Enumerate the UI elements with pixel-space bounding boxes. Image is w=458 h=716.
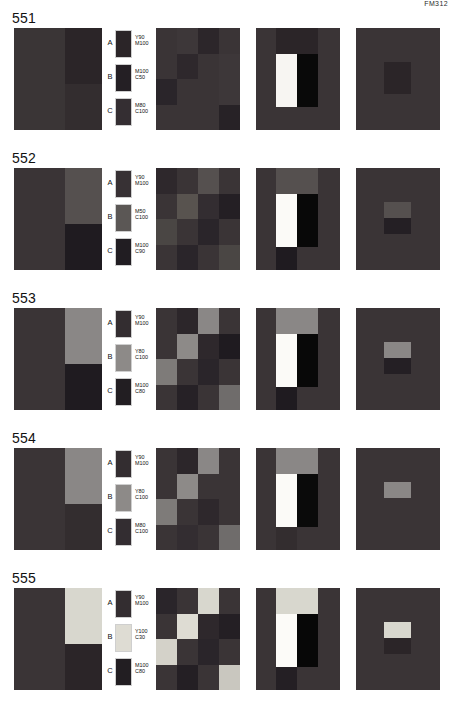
legend-row-letter: A	[106, 458, 114, 467]
legend-row: AY90M100	[106, 30, 152, 58]
mosaic-tile-10	[198, 79, 219, 105]
quadrant-cell-bottom-left	[14, 504, 65, 550]
mosaic-tile-10	[198, 219, 219, 245]
figure-group: 555AY90M100BY100C30CM100C80	[0, 570, 458, 710]
mosaic-tile-9	[177, 219, 198, 245]
bars-black-block	[297, 334, 318, 387]
quadrant-cell-bottom-right	[65, 224, 102, 270]
mosaic-tile-1	[177, 168, 198, 194]
legend-row: BY80C100	[106, 484, 152, 512]
legend-color-swatch	[115, 484, 132, 512]
quadrant-cell-bottom-left	[14, 84, 65, 130]
bars-black-block	[297, 54, 318, 107]
panel-mosaic-image	[156, 168, 240, 270]
mosaic-tile-2	[198, 588, 219, 614]
legend-color-swatch	[115, 98, 132, 126]
panel-bars-image	[256, 448, 340, 550]
quadrant-cell-bottom-right	[65, 364, 102, 410]
legend-row-letter: C	[106, 106, 114, 115]
legend-row: BM50C100	[106, 204, 152, 232]
spot-lower-block	[384, 638, 411, 654]
mosaic-tile-6	[198, 194, 219, 220]
color-legend: AY90M100BY80C100CM80C100	[106, 448, 152, 550]
mosaic-tile-7	[219, 334, 240, 360]
figure-group: 551AY90M100BM100C50CM80C100	[0, 10, 458, 150]
mosaic-tile-9	[177, 499, 198, 525]
mosaic-tile-1	[177, 308, 198, 334]
legend-color-swatch	[115, 204, 132, 232]
legend-row: BY80C100	[106, 344, 152, 372]
mosaic-tile-15	[219, 245, 240, 271]
legend-row: AY90M100	[106, 450, 152, 478]
quadrant-cell-top-left	[14, 168, 65, 224]
legend-ink-line-2: C100	[135, 494, 148, 500]
mosaic-tile-14	[198, 525, 219, 551]
mosaic-tile-3	[219, 588, 240, 614]
quadrant-cell-bottom-right	[65, 504, 102, 550]
panel-bars-image	[256, 588, 340, 690]
quadrant-cell-top-right	[65, 28, 102, 84]
legend-ink-values: M100C80	[135, 382, 149, 395]
spot-lower-block	[384, 358, 411, 374]
group-number-label: 554	[12, 430, 36, 446]
page-header-text: FM312	[424, 0, 448, 8]
mosaic-tile-11	[219, 79, 240, 105]
legend-ink-line-2: C80	[135, 668, 149, 674]
spot-upper-block	[384, 622, 411, 638]
legend-ink-line-2: C100	[135, 354, 148, 360]
quadrant-cell-top-right	[65, 308, 102, 364]
legend-ink-values: Y90M100	[135, 594, 149, 607]
mosaic-tile-14	[198, 385, 219, 411]
legend-ink-line-2: M100	[135, 460, 149, 466]
legend-ink-values: M80C100	[135, 102, 148, 115]
legend-row-letter: C	[106, 386, 114, 395]
spot-lower-block	[384, 218, 411, 234]
spot-upper-block	[384, 482, 411, 498]
bars-black-block	[297, 194, 318, 247]
legend-row-letter: A	[106, 178, 114, 187]
mosaic-tile-4	[156, 614, 177, 640]
legend-row-letter: B	[106, 632, 114, 641]
mosaic-tile-13	[177, 385, 198, 411]
legend-color-swatch	[115, 590, 132, 618]
legend-ink-line-2: M100	[135, 180, 149, 186]
legend-row-letter: C	[106, 666, 114, 675]
mosaic-tile-3	[219, 448, 240, 474]
legend-row-letter: B	[106, 212, 114, 221]
panel-spot-image	[356, 28, 440, 130]
legend-ink-line-2: C90	[135, 248, 149, 254]
mosaic-tile-6	[198, 54, 219, 80]
legend-color-swatch	[115, 658, 132, 686]
mosaic-tile-0	[156, 448, 177, 474]
bars-black-block	[297, 474, 318, 527]
mosaic-tile-4	[156, 474, 177, 500]
legend-color-swatch	[115, 450, 132, 478]
mosaic-tile-7	[219, 614, 240, 640]
panel-spot-image	[356, 308, 440, 410]
color-legend: AY90M100BY100C30CM100C80	[106, 588, 152, 690]
quadrant-cell-top-left	[14, 308, 65, 364]
legend-ink-values: Y80C100	[135, 348, 148, 361]
legend-color-swatch	[115, 518, 132, 546]
mosaic-tile-1	[177, 448, 198, 474]
legend-row-letter: A	[106, 318, 114, 327]
mosaic-tile-14	[198, 105, 219, 131]
legend-color-swatch	[115, 378, 132, 406]
figure-group: 553AY90M100BY80C100CM100C80	[0, 290, 458, 430]
mosaic-tile-12	[156, 245, 177, 271]
mosaic-tile-7	[219, 474, 240, 500]
mosaic-tile-11	[219, 219, 240, 245]
legend-row-letter: B	[106, 352, 114, 361]
group-number-label: 555	[12, 570, 36, 586]
mosaic-tile-1	[177, 28, 198, 54]
figure-group: 552AY90M100BM50C100CM100C90	[0, 150, 458, 290]
panel-spot-image	[356, 448, 440, 550]
mosaic-tile-5	[177, 474, 198, 500]
legend-ink-values: M100C50	[135, 68, 149, 81]
mosaic-tile-12	[156, 525, 177, 551]
legend-ink-line-2: C30	[135, 634, 148, 640]
quadrant-cell-top-right	[65, 448, 102, 504]
legend-row: CM80C100	[106, 98, 152, 126]
bars-top-block	[276, 588, 318, 614]
mosaic-tile-0	[156, 168, 177, 194]
